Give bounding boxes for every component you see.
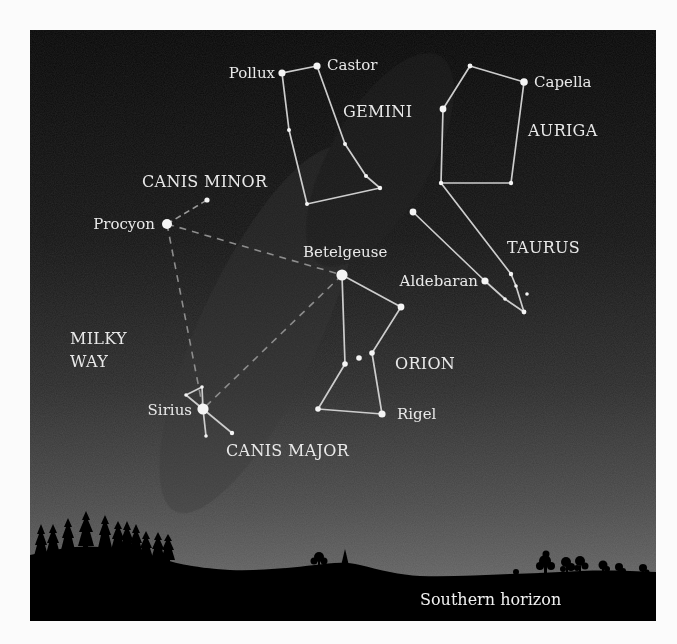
star bbox=[439, 181, 443, 185]
label-castor: Castor bbox=[327, 56, 378, 74]
star bbox=[525, 292, 529, 296]
star-chart-panel: Pollux Castor GEMINI Capella AURIGA CANI… bbox=[30, 30, 656, 621]
star bbox=[343, 142, 347, 146]
star-procyon bbox=[162, 219, 172, 229]
star-castor bbox=[313, 62, 320, 69]
label-canis-minor: CANIS MINOR bbox=[142, 172, 268, 191]
star-chart: Pollux Castor GEMINI Capella AURIGA CANI… bbox=[30, 30, 656, 621]
star bbox=[200, 385, 204, 389]
label-taurus: TAURUS bbox=[507, 238, 580, 257]
label-gemini: GEMINI bbox=[343, 102, 412, 121]
star bbox=[315, 406, 321, 412]
star bbox=[503, 297, 507, 301]
label-milky-way-2: WAY bbox=[70, 352, 108, 371]
star-sirius bbox=[197, 403, 208, 414]
star bbox=[342, 361, 348, 367]
star-betelgeuse bbox=[336, 269, 347, 280]
star bbox=[522, 310, 527, 315]
star bbox=[468, 64, 473, 69]
star-aldebaran bbox=[481, 277, 488, 284]
star bbox=[378, 186, 382, 190]
star-rigel bbox=[378, 410, 385, 417]
star bbox=[204, 197, 209, 202]
label-canis-major: CANIS MAJOR bbox=[226, 441, 350, 460]
star bbox=[184, 393, 188, 397]
star bbox=[369, 350, 375, 356]
label-southern-horizon: Southern horizon bbox=[420, 590, 561, 609]
star bbox=[364, 174, 368, 178]
label-betelgeuse: Betelgeuse bbox=[303, 243, 387, 261]
star bbox=[305, 202, 309, 206]
label-milky-way-1: MILKY bbox=[70, 329, 127, 348]
star bbox=[514, 284, 518, 288]
label-sirius: Sirius bbox=[148, 401, 192, 419]
star bbox=[287, 128, 291, 132]
star bbox=[509, 272, 513, 276]
star bbox=[509, 181, 513, 185]
star bbox=[410, 209, 417, 216]
label-procyon: Procyon bbox=[93, 215, 155, 233]
star bbox=[230, 431, 234, 435]
star-capella bbox=[520, 78, 528, 86]
star bbox=[204, 434, 208, 438]
star bbox=[356, 355, 362, 361]
label-capella: Capella bbox=[534, 73, 591, 91]
label-auriga: AURIGA bbox=[527, 121, 598, 140]
label-rigel: Rigel bbox=[397, 405, 437, 423]
label-aldebaran: Aldebaran bbox=[399, 272, 479, 290]
star-pollux bbox=[278, 69, 285, 76]
label-pollux: Pollux bbox=[229, 64, 276, 82]
star bbox=[440, 106, 447, 113]
label-orion: ORION bbox=[395, 354, 455, 373]
star bbox=[398, 304, 405, 311]
